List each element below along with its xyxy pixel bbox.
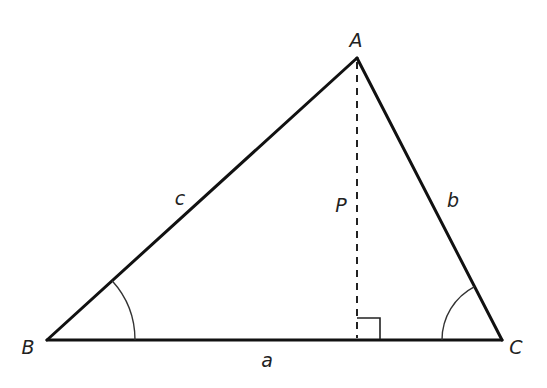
side-label-b: b [447, 191, 459, 210]
angle-arc-b [112, 281, 135, 340]
altitude-label-p: P [335, 196, 346, 215]
side-b-line [357, 58, 502, 340]
vertex-label-a: A [350, 31, 363, 50]
vertex-label-c: C [509, 338, 522, 357]
side-c-line [47, 58, 357, 340]
angle-arc-c [442, 287, 475, 340]
side-label-c: c [175, 189, 185, 208]
triangle-diagram: A B C c b a P [0, 0, 547, 388]
side-label-a: a [261, 351, 273, 370]
vertex-label-b: B [21, 338, 34, 357]
triangle-figure [0, 0, 547, 388]
right-angle-marker [357, 318, 380, 339]
